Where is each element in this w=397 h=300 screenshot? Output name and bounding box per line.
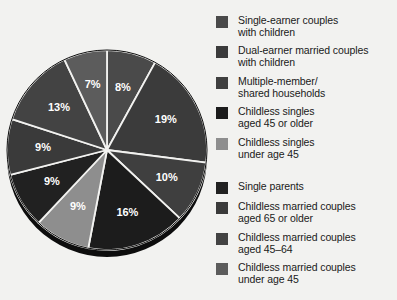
pie-slice-label: 9% [35, 141, 51, 153]
chart-legend: Single-earner couples with childrenDual-… [216, 0, 397, 300]
legend-color-swatch [216, 233, 228, 245]
legend-item-label: Single-earner couples with children [238, 14, 338, 39]
pie-slice-label: 16% [116, 206, 138, 218]
pie-chart-plot-area: 8%19%10%16%9%9%9%13%7% [0, 0, 215, 300]
legend-item-label: Childless married couples aged 65 or old… [238, 200, 356, 225]
pie-slice-label: 9% [44, 175, 60, 187]
pie-slice-label: 9% [70, 200, 86, 212]
legend-item-label: Childless singles under age 45 [238, 136, 315, 161]
legend-color-swatch [216, 263, 228, 275]
legend-item-label: Childless married couples aged 45–64 [238, 231, 356, 256]
pie-chart-figure: 8%19%10%16%9%9%9%13%7% Single-earner cou… [0, 0, 397, 300]
legend-color-swatch [216, 182, 228, 194]
legend-item[interactable]: Single parents [216, 180, 304, 194]
legend-item[interactable]: Childless married couples aged 45–64 [216, 231, 356, 256]
legend-item-label: Single parents [238, 180, 304, 192]
legend-item-label: Childless married couples under age 45 [238, 261, 356, 286]
pie-slice-label: 19% [155, 113, 177, 125]
legend-item[interactable]: Multiple-member/ shared households [216, 75, 325, 100]
legend-item-label: Dual-earner married couples with childre… [238, 44, 368, 69]
legend-item-label: Multiple-member/ shared households [238, 75, 325, 100]
legend-color-swatch [216, 107, 228, 119]
legend-color-swatch [216, 77, 228, 89]
pie-slice-label: 13% [48, 101, 70, 113]
legend-item[interactable]: Childless singles aged 45 or older [216, 105, 315, 130]
pie-slice-label: 7% [85, 78, 101, 90]
legend-color-swatch [216, 46, 228, 58]
legend-color-swatch [216, 138, 228, 150]
legend-item-label: Childless singles aged 45 or older [238, 105, 315, 130]
pie-slice-label: 10% [156, 171, 178, 183]
legend-color-swatch [216, 16, 228, 28]
pie-chart-svg: 8%19%10%16%9%9%9%13%7% [0, 0, 215, 300]
pie-slice-label: 8% [115, 81, 131, 93]
legend-item[interactable]: Single-earner couples with children [216, 14, 338, 39]
legend-item[interactable]: Childless married couples under age 45 [216, 261, 356, 286]
legend-item[interactable]: Childless married couples aged 65 or old… [216, 200, 356, 225]
legend-color-swatch [216, 202, 228, 214]
legend-item[interactable]: Dual-earner married couples with childre… [216, 44, 368, 69]
legend-item[interactable]: Childless singles under age 45 [216, 136, 315, 161]
